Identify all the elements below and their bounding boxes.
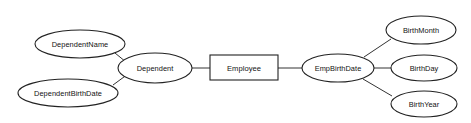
node-birth-year[interactable]: BirthYear bbox=[391, 91, 457, 117]
er-diagram-svg: DependentName DependentBirthDate Depende… bbox=[0, 0, 471, 123]
dependent-birth-date-label: DependentBirthDate bbox=[34, 89, 102, 98]
node-employee[interactable]: Employee bbox=[210, 55, 278, 80]
er-diagram-canvas: DependentName DependentBirthDate Depende… bbox=[0, 0, 471, 123]
dependent-label: Dependent bbox=[137, 64, 174, 73]
node-dependent-birth-date[interactable]: DependentBirthDate bbox=[18, 79, 118, 107]
node-dependent-name[interactable]: DependentName bbox=[35, 30, 125, 58]
node-emp-birth-date[interactable]: EmpBirthDate bbox=[302, 54, 374, 82]
node-dependent[interactable]: Dependent bbox=[118, 53, 192, 83]
edge-empbirthdate-birthmonth bbox=[364, 39, 391, 57]
birth-month-label: BirthMonth bbox=[403, 26, 439, 35]
node-birth-day[interactable]: BirthDay bbox=[391, 55, 457, 81]
emp-birth-date-label: EmpBirthDate bbox=[315, 64, 362, 73]
birth-day-label: BirthDay bbox=[410, 64, 439, 73]
employee-label: Employee bbox=[227, 64, 261, 73]
birth-year-label: BirthYear bbox=[409, 100, 440, 109]
edge-empbirthdate-birthyear bbox=[363, 79, 392, 96]
dependent-name-label: DependentName bbox=[52, 40, 109, 49]
node-birth-month[interactable]: BirthMonth bbox=[386, 16, 456, 44]
